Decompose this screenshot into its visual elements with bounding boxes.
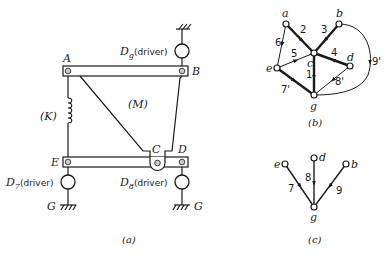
tree-figure-c: e d b g 7 8 9 (c)	[274, 151, 358, 245]
edge-8p	[314, 66, 350, 95]
svg-text:d: d	[347, 51, 354, 64]
svg-text:1: 1	[306, 69, 312, 80]
spring-K-icon	[68, 98, 72, 123]
node-c	[311, 50, 317, 56]
svg-text:3: 3	[321, 24, 327, 35]
svg-text:g: g	[310, 100, 317, 113]
label-M: (M)	[128, 98, 148, 111]
ground-left-icon	[60, 205, 76, 210]
mechanism-figure-a: Dg(driver) A B (M) (K) C D E D7(driver)	[5, 24, 203, 245]
bar-AB	[63, 66, 188, 76]
node-c-b	[343, 161, 349, 167]
svg-text:9: 9	[336, 185, 342, 196]
label-G-right: G	[194, 200, 203, 213]
svg-text:8: 8	[305, 172, 311, 183]
svg-text:7': 7'	[281, 84, 290, 95]
caption-b: (b)	[308, 117, 322, 128]
svg-text:e: e	[274, 158, 281, 171]
link-M	[80, 76, 150, 157]
driver-g-label: Dg(driver)	[119, 45, 167, 60]
svg-text:d: d	[319, 151, 326, 164]
label-K: (K)	[40, 110, 57, 123]
caption-c: (c)	[308, 234, 322, 245]
svg-text:9': 9'	[372, 56, 381, 67]
svg-text:g: g	[310, 211, 317, 224]
label-G-left: G	[47, 200, 56, 213]
driver-8-label: D8(driver)	[119, 176, 167, 191]
label-B: B	[191, 65, 200, 78]
figure-canvas: Dg(driver) A B (M) (K) C D E D7(driver)	[0, 0, 385, 254]
node-e	[274, 65, 280, 71]
label-C: C	[152, 143, 161, 156]
label-D: D	[177, 143, 187, 156]
ground-right-icon	[173, 205, 190, 210]
svg-text:e: e	[266, 62, 273, 75]
svg-text:7: 7	[288, 183, 294, 194]
svg-text:6: 6	[275, 37, 281, 48]
node-c-e	[282, 161, 288, 167]
bar-ED	[63, 157, 188, 167]
label-A: A	[62, 52, 71, 65]
driver-7-label: D7(driver)	[5, 176, 53, 191]
svg-text:b: b	[351, 158, 358, 171]
graph-figure-b: a b c d e g 1 2 3 4 5 6 7' 8' 9' (b)	[266, 7, 381, 128]
svg-text:b: b	[336, 7, 343, 20]
svg-text:8': 8'	[335, 76, 344, 87]
label-E: E	[50, 156, 59, 169]
driver-7-circle	[61, 175, 75, 189]
caption-a: (a)	[122, 234, 136, 245]
svg-text:a: a	[282, 7, 289, 20]
ground-top-icon	[176, 24, 191, 44]
node-b	[336, 21, 342, 27]
node-c-d	[311, 155, 317, 161]
node-a	[283, 21, 289, 27]
svg-text:4: 4	[331, 47, 337, 58]
driver-8-circle	[175, 175, 189, 189]
node-g	[311, 92, 317, 98]
svg-text:2: 2	[300, 24, 306, 35]
driver-g-circle	[175, 44, 189, 58]
svg-text:5: 5	[291, 48, 297, 59]
node-c-g	[311, 204, 317, 210]
